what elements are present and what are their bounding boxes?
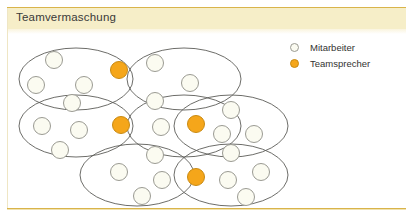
mitarbeiter-node (153, 119, 170, 136)
team-mesh-diagram (0, 0, 413, 221)
legend-item-mitarbeiter: Mitarbeiter (290, 40, 370, 54)
speaker-circle-icon (290, 59, 299, 68)
legend-item-label: Teamsprecher (310, 58, 370, 69)
mitarbeiter-node (111, 164, 128, 181)
team-mesh-svg (0, 0, 413, 221)
bottom-gold-rule-soft (7, 209, 406, 210)
mitarbeiter-node (154, 172, 171, 189)
mitarbeiter-node (253, 164, 270, 181)
mitarbeiter-node (28, 77, 45, 94)
mitarbeiter-node (223, 102, 240, 119)
legend-item-label: Mitarbeiter (310, 42, 355, 53)
mitarbeiter-node (52, 142, 69, 159)
mitarbeiter-node (214, 126, 231, 143)
mitarbeiter-node (223, 145, 240, 162)
teamsprecher-node (188, 169, 205, 186)
mitarbeiter-node (46, 52, 63, 69)
mitarbeiter-node (147, 93, 164, 110)
teamsprecher-node (113, 117, 130, 134)
mitarbeiter-node (71, 122, 88, 139)
team-node-layer (28, 52, 270, 206)
teamsprecher-node (188, 116, 205, 133)
mitarbeiter-node (220, 172, 237, 189)
legend: Mitarbeiter Teamsprecher (290, 40, 370, 72)
slide-canvas: Teamvermaschung Mitarbeiter Teamsprecher (0, 0, 413, 221)
mitarbeiter-node (64, 95, 81, 112)
mitarbeiter-node (238, 189, 255, 206)
mitarbeiter-node (182, 75, 199, 92)
teamsprecher-node (111, 62, 128, 79)
mitarbeiter-node (34, 118, 51, 135)
mitarbeiter-node (76, 77, 93, 94)
mitarbeiter-node (147, 55, 164, 72)
legend-item-teamsprecher: Teamsprecher (290, 56, 370, 70)
mitarbeiter-node (147, 147, 164, 164)
mitarbeiter-node (246, 126, 263, 143)
employee-circle-icon (290, 43, 299, 52)
mitarbeiter-node (134, 188, 151, 205)
